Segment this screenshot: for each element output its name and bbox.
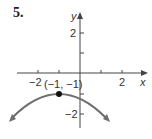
parabola-curve [12,94,106,118]
vertex-label: (−1, −1) [44,78,83,90]
y-tick-label-2: 2 [70,27,76,39]
x-tick-label-neg2: −2 [29,76,42,88]
x-tick-label-2: 2 [119,76,125,88]
parabola-graph: y 2 −2 −2 2 x (−1, −1) [0,0,152,139]
y-tick-label-neg2: −2 [65,108,78,120]
x-axis-label: x [139,76,146,88]
y-axis-label: y [70,10,78,22]
vertex-point [56,91,62,97]
y-axis-arrow-icon [77,12,83,19]
y-axis [77,12,84,128]
